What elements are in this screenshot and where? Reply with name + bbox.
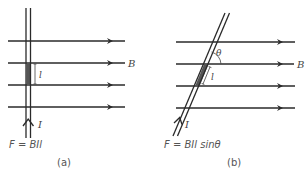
angle-label: θ <box>216 48 222 58</box>
field-arrowheads-b <box>277 39 283 111</box>
panel-b: θ B l I F = BIl sinθ (b) <box>164 13 304 168</box>
formula-b: F = BIl sinθ <box>164 139 221 150</box>
formula-a: F = BIl <box>9 139 42 150</box>
field-label-a: B <box>127 58 135 69</box>
current-arrow-icon <box>23 119 34 126</box>
length-bracket-a <box>34 64 37 84</box>
length-label-b: l <box>211 72 214 82</box>
caption-b: (b) <box>227 157 241 168</box>
magnetic-force-on-wire-figure: B l I F = BIl (a) <box>0 0 307 176</box>
wire-segment-a <box>27 63 31 85</box>
length-label-a: l <box>39 70 42 80</box>
panel-a: B l I F = BIl (a) <box>8 8 135 168</box>
current-label-b: I <box>184 119 190 130</box>
field-label-b: B <box>296 59 304 70</box>
caption-a: (a) <box>57 157 71 168</box>
current-label-a: I <box>37 119 43 130</box>
field-arrowheads-a <box>107 38 113 110</box>
